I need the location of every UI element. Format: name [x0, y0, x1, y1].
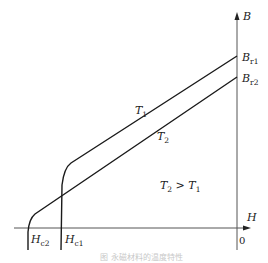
curve-t2 — [28, 77, 237, 250]
h-axis-label: H — [246, 211, 257, 224]
h-axis-arrow-icon — [243, 226, 251, 231]
figure-caption: 图 永磁材料的温度特性 — [100, 252, 183, 262]
t2-label: T2 — [157, 130, 169, 145]
t1-label: T1 — [135, 104, 147, 119]
origin-label: 0 — [239, 235, 245, 246]
demagnetization-diagram: B H 0 Br1 Br2 T1 T2 T2 > T1 Hc2 Hc1 图 永磁… — [0, 0, 268, 263]
hc2-label: Hc2 — [30, 233, 50, 248]
hc1-label: Hc1 — [64, 233, 84, 248]
br1-label: Br1 — [241, 51, 258, 66]
b-axis-arrow-icon — [235, 12, 240, 20]
br2-label: Br2 — [241, 72, 259, 87]
temperature-relation: T2 > T1 — [160, 179, 200, 194]
curve-t1 — [61, 56, 237, 250]
b-axis-label: B — [242, 10, 251, 23]
